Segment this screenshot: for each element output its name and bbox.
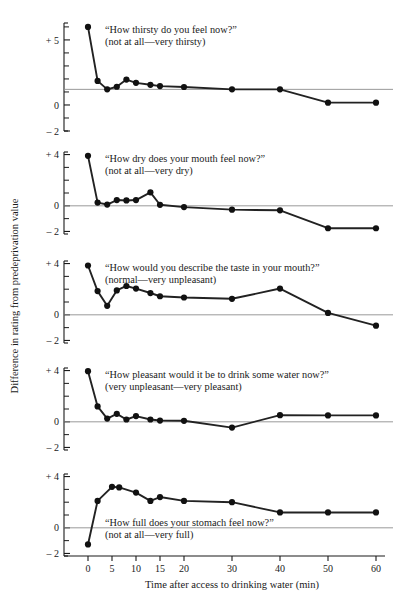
data-point-panel-3-t30: [229, 296, 235, 302]
x-axis-title: Time after access to drinking water (min…: [145, 579, 319, 591]
data-point-panel-1-t60: [373, 100, 379, 106]
panel-subtitle-3: (normal—very unpleasant): [105, 274, 216, 286]
data-point-panel-1-t2: [95, 78, 101, 84]
panel-subtitle-1: (not at all—very thirsty): [105, 36, 205, 48]
data-point-panel-5-t20: [181, 498, 187, 504]
data-point-panel-1-t6: [114, 84, 120, 90]
panel-subtitle-5: (not at all—very full): [105, 529, 193, 541]
data-point-panel-1-t20: [181, 84, 187, 90]
data-point-panel-4-t2: [95, 403, 101, 409]
data-point-panel-2-t6: [114, 197, 120, 203]
data-point-panel-4-t40: [277, 412, 283, 418]
data-point-panel-3-t15: [157, 293, 163, 299]
panel-question-1: “How thirsty do you feel now?”: [105, 24, 237, 35]
y-tick-label--2-panel-4: – 2: [46, 442, 60, 453]
data-point-panel-5-t60: [373, 509, 379, 515]
data-point-panel-5-t50: [325, 509, 331, 515]
x-tick-label-60: 60: [371, 563, 381, 574]
data-point-panel-1-t15: [157, 83, 163, 89]
data-point-panel-4-t13: [147, 416, 153, 422]
y-tick-label-0-panel-1: 0: [54, 100, 59, 111]
data-point-panel-4-t4: [104, 416, 110, 422]
panel-question-3: “How would you describe the taste in you…: [105, 262, 320, 273]
data-point-panel-1-t10: [133, 80, 139, 86]
data-point-panel-3-t4: [104, 303, 110, 309]
figure-container: – 20+ 5“How thirsty do you feel now?”(no…: [0, 0, 399, 592]
panel-question-2: “How dry does your mouth feel now?”: [105, 153, 266, 164]
y-tick-label--2-panel-3: – 2: [46, 335, 60, 346]
data-point-panel-4-t10: [133, 413, 139, 419]
data-point-panel-2-t0: [85, 153, 91, 159]
y-tick-label-4-panel-2: + 4: [46, 149, 59, 160]
x-tick-label-30: 30: [227, 563, 237, 574]
data-point-panel-2-t10: [133, 197, 139, 203]
data-point-panel-4-t60: [373, 412, 379, 418]
y-tick-label-5-panel-1: + 5: [46, 35, 59, 46]
data-point-panel-1-t8: [123, 77, 129, 83]
y-tick-label-0-panel-4: 0: [54, 416, 59, 427]
data-point-panel-3-t0: [85, 262, 91, 268]
data-point-panel-3-t50: [325, 310, 331, 316]
data-point-panel-4-t15: [157, 417, 163, 423]
data-point-panel-2-t40: [277, 207, 283, 213]
five-panel-line-chart: – 20+ 5“How thirsty do you feel now?”(no…: [0, 0, 399, 592]
data-point-panel-5-t2: [95, 498, 101, 504]
data-point-panel-2-t30: [229, 207, 235, 213]
panel-3: – 20+ 4“How would you describe the taste…: [46, 258, 394, 346]
data-point-panel-2-t2: [95, 200, 101, 206]
data-point-panel-3-t20: [181, 294, 187, 300]
panel-subtitle-2: (not at all—very dry): [105, 165, 193, 177]
data-point-panel-2-t20: [181, 204, 187, 210]
data-point-panel-2-t4: [104, 201, 110, 207]
data-point-panel-5-t5: [109, 484, 115, 490]
panel-5: – 20+ 4“How full does your stomach feel …: [46, 471, 394, 559]
y-tick-label-0-panel-5: 0: [54, 522, 59, 533]
data-point-panel-1-t40: [277, 86, 283, 92]
data-point-panel-4-t8: [123, 416, 129, 422]
data-point-panel-5-t0: [85, 541, 91, 547]
y-tick-label-4-panel-3: + 4: [46, 258, 59, 269]
x-tick-label-20: 20: [179, 563, 189, 574]
data-point-panel-2-t8: [123, 197, 129, 203]
data-point-panel-5-t13: [147, 498, 153, 504]
data-point-panel-3-t2: [95, 288, 101, 294]
data-point-panel-5-t40: [277, 509, 283, 515]
x-tick-label-50: 50: [323, 563, 333, 574]
y-tick-label-4-panel-4: + 4: [46, 365, 59, 376]
data-point-panel-5-t15: [157, 494, 163, 500]
y-tick-label--2-panel-2: – 2: [46, 226, 60, 237]
panel-subtitle-4: (very unpleasant—very pleasant): [105, 381, 242, 393]
data-point-panel-4-t20: [181, 418, 187, 424]
data-point-panel-2-t60: [373, 225, 379, 231]
panel-2: – 20+ 4“How dry does your mouth feel now…: [46, 149, 394, 237]
data-point-panel-2-t15: [157, 202, 163, 208]
data-point-panel-3-t40: [277, 285, 283, 291]
panel-1: – 20+ 5“How thirsty do you feel now?”(no…: [46, 23, 394, 137]
x-tick-label-10: 10: [131, 563, 141, 574]
x-tick-label-15: 15: [155, 563, 165, 574]
x-tick-label-40: 40: [275, 563, 285, 574]
data-point-panel-1-t0: [85, 24, 91, 30]
y-axis-title: Difference in rating from predeprivation…: [9, 198, 20, 393]
data-point-panel-1-t30: [229, 86, 235, 92]
data-point-panel-4-t50: [325, 412, 331, 418]
data-point-panel-1-t13: [147, 82, 153, 88]
y-tick-label--2-panel-1: – 2: [46, 126, 60, 137]
data-point-panel-3-t13: [147, 290, 153, 296]
y-tick-label-4-panel-5: + 4: [46, 471, 59, 482]
data-point-panel-3-t6: [114, 287, 120, 293]
data-point-panel-1-t50: [325, 100, 331, 106]
data-point-panel-4-t6: [114, 411, 120, 417]
panel-question-5: “How full does your stomach feel now?”: [105, 517, 274, 528]
panel-4: – 20+ 4“How pleasant would it be to drin…: [46, 365, 394, 453]
data-point-panel-1-t4: [104, 86, 110, 92]
data-point-panel-4-t30: [229, 424, 235, 430]
y-tick-label-0-panel-3: 0: [54, 309, 59, 320]
data-point-panel-2-t50: [325, 225, 331, 231]
data-point-panel-5-t10: [133, 489, 139, 495]
data-point-panel-3-t60: [373, 323, 379, 329]
data-point-panel-4-t0: [85, 368, 91, 374]
panel-question-4: “How pleasant would it be to drink some …: [105, 369, 329, 380]
y-tick-label--2-panel-5: – 2: [46, 548, 60, 559]
data-point-panel-3-t10: [133, 285, 139, 291]
